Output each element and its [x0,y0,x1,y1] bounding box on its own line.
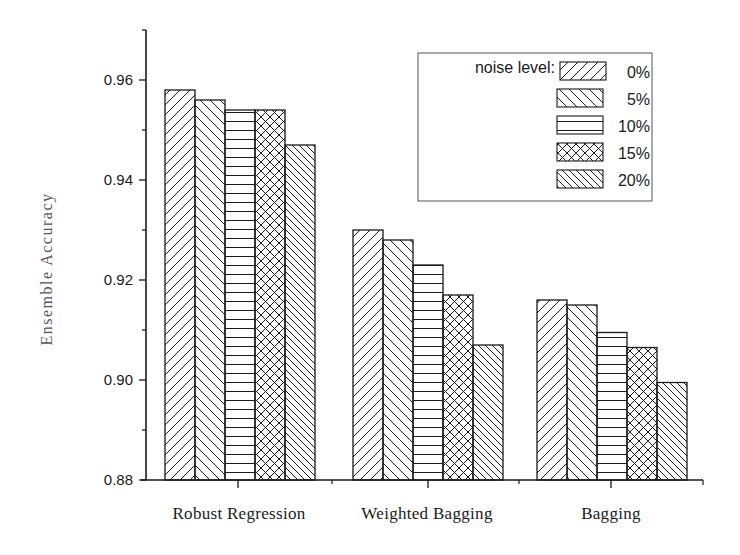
bar-group-bagging [537,300,687,480]
category-label-bagging: Bagging [581,504,641,523]
y-tick-label: 0.90 [104,371,133,388]
legend-label: 10% [618,118,650,135]
bar [567,305,597,480]
legend-swatch [557,170,603,188]
bar [255,110,285,480]
bar [195,100,225,480]
legend-label: 20% [618,172,650,189]
y-tick-label: 0.92 [104,271,133,288]
bar [383,240,413,480]
y-axis: 0.880.900.920.940.96 [104,30,146,488]
bar [657,383,687,481]
category-label-weighted-bagging: Weighted Bagging [361,504,493,523]
bar [443,295,473,480]
category-label-robust-regression: Robust Regression [172,504,305,523]
bar-group-weighted-bagging [353,230,503,480]
legend-title: noise level: [475,59,555,76]
legend-label: 0% [627,64,650,81]
legend-swatch [557,116,603,134]
legend-swatch [557,89,603,107]
legend-item: 15% [557,143,650,162]
y-tick-label: 0.94 [104,171,133,188]
bar [225,110,255,480]
bar-chart: Ensemble Accuracy 0.880.900.920.940.96 R… [0,0,740,555]
bar [353,230,383,480]
bar [285,145,315,480]
x-axis [141,480,703,488]
bar [473,345,503,480]
legend-item: 20% [557,170,650,189]
bar [627,348,657,481]
bar-group-robust-regression [165,90,315,480]
legend-swatch [557,143,603,161]
legend-label: 5% [627,91,650,108]
legend-swatch [560,62,606,80]
x-category-labels: Robust Regression Weighted Bagging Baggi… [172,504,641,523]
legend-item: 0% [560,62,650,81]
legend-item: 5% [557,89,650,108]
bar [597,333,627,481]
bar [413,265,443,480]
bar [165,90,195,480]
y-tick-label: 0.88 [104,471,133,488]
y-axis-label: Ensemble Accuracy [38,193,56,346]
y-tick-label: 0.96 [104,71,133,88]
legend-label: 15% [618,145,650,162]
bar [537,300,567,480]
legend: noise level: 0%5%10%15%20% [418,53,652,201]
legend-item: 10% [557,116,650,135]
